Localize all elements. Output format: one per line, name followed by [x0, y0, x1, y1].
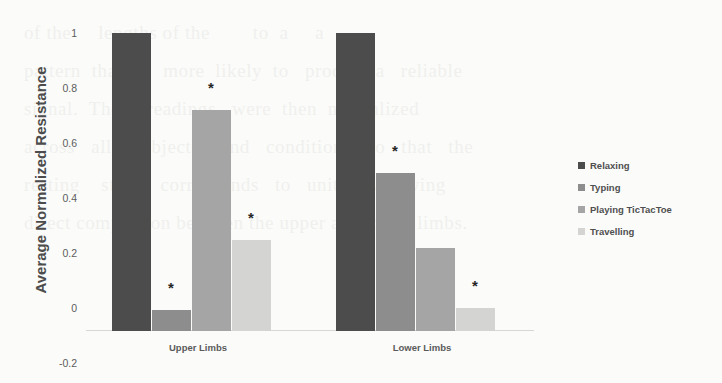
significance-marker: * — [208, 83, 214, 92]
legend-item[interactable]: Typing — [578, 176, 672, 198]
y-axis-tick-label: -0.2 — [59, 357, 77, 369]
y-axis-tick-label: 0.4 — [62, 192, 77, 204]
significance-marker: * — [248, 213, 254, 222]
legend-swatch-icon — [578, 184, 585, 191]
legend-swatch-icon — [578, 206, 585, 213]
legend-label: Travelling — [590, 226, 634, 237]
bar-relaxing[interactable] — [112, 33, 151, 331]
bar-group: **Lower Limbs — [310, 27, 534, 331]
bar-travelling[interactable] — [456, 308, 495, 331]
legend-swatch-icon — [578, 162, 585, 169]
y-axis-tick-label: 0.8 — [62, 82, 77, 94]
bar-group: ***Upper Limbs — [86, 27, 310, 331]
bar-playing-tictactoe[interactable] — [192, 110, 231, 331]
legend-item[interactable]: Relaxing — [578, 154, 672, 176]
x-axis-tick-label: Lower Limbs — [393, 342, 452, 353]
bar-relaxing[interactable] — [336, 33, 375, 331]
chart-legend: RelaxingTypingPlaying TicTacToeTravellin… — [578, 154, 672, 242]
legend-swatch-icon — [578, 228, 585, 235]
significance-marker: * — [472, 281, 478, 290]
bar-chart-figure: Average Normalized Resistance 10.80.60.4… — [0, 0, 722, 383]
y-axis-tick-label: 1 — [71, 27, 77, 39]
y-axis-tick-label: 0.2 — [62, 247, 77, 259]
y-axis-tick-label: 0.6 — [62, 137, 77, 149]
y-axis-tick-label: 0 — [71, 302, 77, 314]
bar-typing[interactable] — [152, 310, 191, 331]
x-axis-tick-label: Upper Limbs — [169, 342, 227, 353]
plot-area: 10.80.60.40.20-0.2 ***Upper Limbs**Lower… — [86, 27, 534, 331]
bar-travelling[interactable] — [232, 240, 271, 331]
legend-label: Relaxing — [590, 160, 630, 171]
legend-item[interactable]: Travelling — [578, 220, 672, 242]
bar-typing[interactable] — [376, 173, 415, 331]
y-axis-title: Average Normalized Resistance — [32, 50, 54, 310]
significance-marker: * — [168, 283, 174, 292]
bar-playing-tictactoe[interactable] — [416, 248, 455, 331]
legend-label: Playing TicTacToe — [590, 204, 672, 215]
significance-marker: * — [392, 146, 398, 155]
legend-item[interactable]: Playing TicTacToe — [578, 198, 672, 220]
legend-label: Typing — [590, 182, 620, 193]
